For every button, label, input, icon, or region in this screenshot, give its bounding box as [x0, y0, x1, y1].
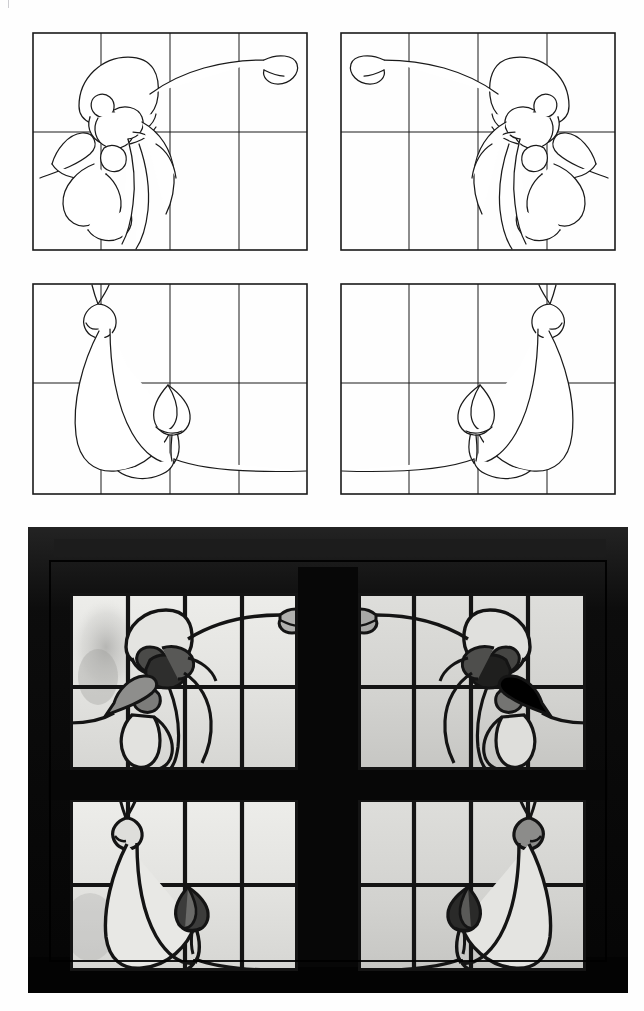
- drawing-panel-grid: [0, 0, 644, 512]
- drawing-panel-top-right: [340, 32, 616, 251]
- drawing-panel-middle-right: [340, 283, 616, 495]
- drawing-panel-middle-left: [32, 283, 308, 495]
- finished-window-photograph: [28, 527, 628, 993]
- page-canvas: [0, 0, 644, 1011]
- drawing-panel-top-left: [32, 32, 308, 251]
